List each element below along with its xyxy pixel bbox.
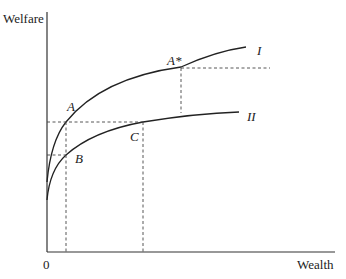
welfare-wealth-diagram: Welfare Wealth 0 I II A A* B C	[0, 0, 346, 279]
point-B-label: B	[75, 152, 83, 165]
x-axis-label: Wealth	[297, 258, 334, 271]
point-A-label: A	[67, 100, 75, 113]
y-axis-label: Welfare	[3, 12, 44, 25]
curve-I-label: I	[257, 44, 261, 57]
point-C-label: C	[130, 130, 139, 143]
diagram-canvas	[0, 0, 346, 279]
origin-label: 0	[43, 258, 50, 271]
point-A-star-label: A*	[167, 54, 181, 67]
curve-II-label: II	[247, 110, 256, 123]
